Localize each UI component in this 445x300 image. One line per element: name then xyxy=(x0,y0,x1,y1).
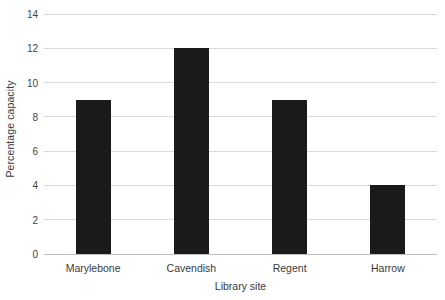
y-axis-tick-label: 4 xyxy=(32,180,38,191)
bar[interactable] xyxy=(76,100,111,254)
x-axis-title-label: Library site xyxy=(215,280,266,292)
x-axis-category-label: Harrow xyxy=(371,262,405,274)
x-axis-title: Library site xyxy=(44,280,437,292)
x-axis-category-label: Marylebone xyxy=(66,262,121,274)
y-axis-tick-label: 10 xyxy=(27,77,38,88)
x-axis-category-label: Cavendish xyxy=(167,262,217,274)
y-axis-tick-label: 12 xyxy=(27,43,38,54)
y-axis-tick-label: 0 xyxy=(32,249,38,260)
y-axis-title: Percentage capacity xyxy=(0,0,20,258)
y-axis-tick-label: 8 xyxy=(32,111,38,122)
gridline xyxy=(44,82,437,83)
gridline xyxy=(44,14,437,15)
bar[interactable] xyxy=(174,48,209,254)
y-axis-tick-label: 14 xyxy=(27,9,38,20)
x-axis-category-label: Regent xyxy=(273,262,307,274)
bar[interactable] xyxy=(272,100,307,254)
plot-area: 02468101214 xyxy=(44,14,437,254)
y-axis-tick-label: 2 xyxy=(32,214,38,225)
bar[interactable] xyxy=(370,185,405,254)
y-axis-title-label: Percentage capacity xyxy=(4,80,16,177)
bar-chart: Percentage capacity 02468101214 Library … xyxy=(0,0,445,300)
gridline xyxy=(44,48,437,49)
y-axis-tick-label: 6 xyxy=(32,146,38,157)
